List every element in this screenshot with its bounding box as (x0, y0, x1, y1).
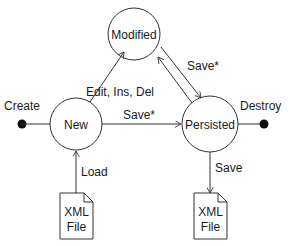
state-modified[interactable]: Modified (108, 8, 160, 60)
create-label: Create (4, 99, 40, 113)
state-diagram: Create New Modified Persisted Edit, Ins,… (0, 0, 290, 246)
state-persisted-label: Persisted (185, 118, 235, 132)
load-label: Load (81, 165, 108, 179)
state-persisted[interactable]: Persisted (182, 96, 238, 152)
xml-file-input-document[interactable]: XML File (60, 193, 93, 239)
edit-ins-del-label: Edit, Ins, Del (86, 85, 154, 99)
destroy-dot-icon (260, 120, 269, 129)
xml-file-input-line2: File (67, 220, 87, 234)
save-star-mid-label: Save* (123, 108, 155, 122)
destroy-label: Destroy (240, 99, 281, 113)
xml-file-output-line2: File (201, 220, 221, 234)
state-new-label: New (64, 118, 88, 132)
xml-file-input-line1: XML (64, 205, 89, 219)
xml-file-output-document[interactable]: XML File (194, 193, 227, 239)
state-modified-label: Modified (111, 28, 156, 42)
save-label: Save (215, 161, 243, 175)
save-star-top-label: Save* (187, 59, 219, 73)
xml-file-output-line1: XML (198, 205, 223, 219)
state-new[interactable]: New (50, 98, 102, 150)
